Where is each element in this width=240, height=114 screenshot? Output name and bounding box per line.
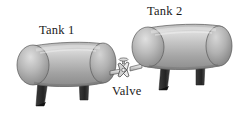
tank2-label: Tank 2 (147, 5, 182, 18)
valve-label: Valve (112, 85, 141, 98)
tank-diagram-figure: Tank 1 Tank 2 Valve (0, 0, 240, 114)
tank1-body (17, 42, 116, 86)
tank2-body (132, 24, 232, 69)
tank1-label: Tank 1 (39, 24, 74, 37)
valve-icon (118, 58, 129, 77)
